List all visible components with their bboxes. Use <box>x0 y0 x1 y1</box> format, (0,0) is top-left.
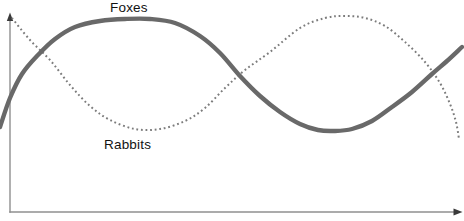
chart-canvas <box>0 0 464 221</box>
rabbits-curve <box>12 16 459 139</box>
rabbits-label: Rabbits <box>104 137 151 152</box>
foxes-curve <box>0 19 462 131</box>
y-axis-arrow-icon <box>7 13 13 22</box>
foxes-label: Foxes <box>110 0 148 15</box>
predator-prey-diagram: Foxes Rabbits <box>0 0 464 221</box>
x-axis-arrow-icon <box>454 209 463 216</box>
